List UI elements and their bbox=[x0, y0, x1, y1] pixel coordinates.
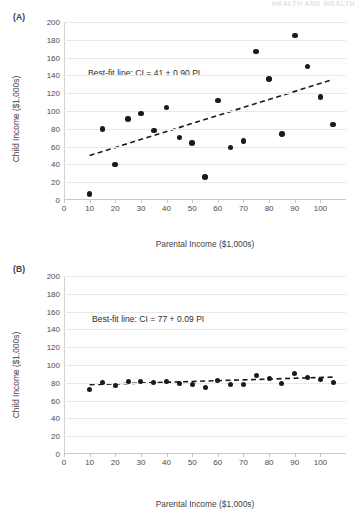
y-axis-tick-label: 0 bbox=[30, 450, 60, 459]
gridline bbox=[64, 22, 346, 23]
x-axis-tick-mark bbox=[320, 200, 321, 203]
scatter-point bbox=[189, 140, 195, 146]
x-axis-tick-label: 70 bbox=[239, 458, 248, 467]
gridline bbox=[64, 93, 346, 94]
y-axis-tick-label: 60 bbox=[30, 142, 60, 151]
x-axis-tick-mark bbox=[269, 200, 270, 203]
scatter-point bbox=[202, 174, 208, 180]
x-axis-tick-mark bbox=[192, 200, 193, 203]
gridline bbox=[64, 129, 346, 130]
x-axis-tick-mark bbox=[167, 200, 168, 203]
scatter-point bbox=[305, 375, 310, 380]
x-axis-tick-mark bbox=[295, 200, 296, 203]
gridline bbox=[64, 40, 346, 41]
panel-a: (A) Child Income ($1,000s) Parental Inco… bbox=[0, 10, 357, 260]
scatter-point bbox=[151, 128, 157, 134]
y-axis-tick-label: 80 bbox=[30, 124, 60, 133]
gridline bbox=[64, 329, 346, 330]
scatter-point bbox=[318, 94, 324, 100]
gridline bbox=[64, 312, 346, 313]
x-axis-tick-mark bbox=[90, 200, 91, 203]
gridline bbox=[64, 276, 346, 277]
x-axis-tick-label: 0 bbox=[62, 204, 66, 213]
scatter-point bbox=[292, 33, 298, 39]
panel-b-label: (B) bbox=[13, 264, 25, 274]
gridline bbox=[64, 401, 346, 402]
scatter-point bbox=[215, 98, 221, 104]
x-axis-tick-mark bbox=[115, 454, 116, 457]
gridline bbox=[64, 294, 346, 295]
y-axis-tick-label: 60 bbox=[30, 396, 60, 405]
x-axis-tick-label: 50 bbox=[188, 458, 197, 467]
x-axis-tick-label: 30 bbox=[136, 204, 145, 213]
scatter-point bbox=[330, 122, 336, 128]
scatter-point bbox=[254, 373, 259, 378]
gridline bbox=[64, 182, 346, 183]
scatter-point bbox=[177, 381, 182, 386]
scatter-point bbox=[241, 382, 246, 387]
scatter-point bbox=[279, 131, 285, 137]
scatter-point bbox=[215, 378, 220, 383]
scatter-point bbox=[203, 385, 208, 390]
gridline bbox=[64, 75, 346, 76]
y-axis-tick-label: 140 bbox=[30, 325, 60, 334]
x-axis-tick-label: 10 bbox=[85, 458, 94, 467]
x-axis-tick-mark bbox=[64, 200, 65, 203]
gridline bbox=[64, 365, 346, 366]
panel-b-x-axis-label: Parental Income ($1,000s) bbox=[60, 499, 350, 509]
x-axis-tick-label: 20 bbox=[111, 204, 120, 213]
x-axis-tick-mark bbox=[90, 454, 91, 457]
scatter-point bbox=[267, 376, 272, 381]
y-axis-tick-label: 140 bbox=[30, 71, 60, 80]
y-axis-tick-label: 200 bbox=[30, 18, 60, 27]
y-axis-tick-label: 100 bbox=[30, 107, 60, 116]
x-axis-tick-label: 40 bbox=[162, 458, 171, 467]
y-axis-tick-label: 40 bbox=[30, 414, 60, 423]
scatter-point bbox=[190, 382, 195, 387]
x-axis-tick-label: 0 bbox=[62, 458, 66, 467]
gridline bbox=[64, 111, 346, 112]
panel-b-plot-area: 0204060801001201401601802000102030405060… bbox=[64, 276, 346, 454]
gridline bbox=[64, 418, 346, 419]
gridline bbox=[64, 347, 346, 348]
y-axis-tick-label: 180 bbox=[30, 289, 60, 298]
scatter-point bbox=[87, 191, 93, 197]
x-axis-tick-mark bbox=[167, 454, 168, 457]
scatter-point bbox=[331, 380, 336, 385]
x-axis-tick-label: 80 bbox=[265, 204, 274, 213]
x-axis-tick-label: 20 bbox=[111, 458, 120, 467]
x-axis-tick-label: 90 bbox=[290, 458, 299, 467]
x-axis-tick-label: 30 bbox=[136, 458, 145, 467]
gridline bbox=[64, 58, 346, 59]
figure-page: HEALTH AND WEALTH (A) Child Income ($1,0… bbox=[0, 0, 357, 522]
gridline bbox=[64, 164, 346, 165]
scatter-point bbox=[266, 76, 272, 82]
y-axis-tick-label: 0 bbox=[30, 196, 60, 205]
panel-a-plot-area: 0204060801001201401601802000102030405060… bbox=[64, 22, 346, 200]
x-axis-tick-label: 90 bbox=[290, 204, 299, 213]
x-axis-tick-label: 60 bbox=[213, 204, 222, 213]
y-axis-tick-label: 160 bbox=[30, 53, 60, 62]
x-axis-tick-label: 60 bbox=[213, 458, 222, 467]
x-axis-tick-mark bbox=[320, 454, 321, 457]
gridline bbox=[64, 147, 346, 148]
x-axis-tick-mark bbox=[269, 454, 270, 457]
scatter-point bbox=[87, 387, 92, 392]
x-axis-tick-mark bbox=[295, 454, 296, 457]
x-axis-tick-label: 70 bbox=[239, 204, 248, 213]
panel-b: (B) Child Income ($1,000s) Parental Inco… bbox=[0, 262, 357, 520]
panel-b-y-axis-label: Child Income ($1,000s) bbox=[11, 315, 21, 435]
x-axis-tick-label: 50 bbox=[188, 204, 197, 213]
y-axis-tick-label: 80 bbox=[30, 378, 60, 387]
x-axis-tick-label: 100 bbox=[314, 458, 327, 467]
scatter-point bbox=[253, 49, 259, 55]
running-header: HEALTH AND WEALTH bbox=[120, 0, 355, 8]
y-axis-tick-label: 20 bbox=[30, 178, 60, 187]
x-axis-tick-mark bbox=[115, 200, 116, 203]
x-axis-tick-label: 80 bbox=[265, 458, 274, 467]
y-axis-tick-label: 200 bbox=[30, 272, 60, 281]
x-axis-tick-mark bbox=[141, 200, 142, 203]
y-axis-tick-label: 180 bbox=[30, 35, 60, 44]
y-axis-tick-label: 40 bbox=[30, 160, 60, 169]
y-axis-tick-label: 120 bbox=[30, 89, 60, 98]
